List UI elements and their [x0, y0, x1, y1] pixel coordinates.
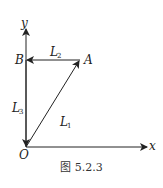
vector-l1	[26, 61, 79, 147]
figure-caption: 图 5.2.3	[0, 158, 163, 174]
vector-l3-label: L 3	[11, 101, 23, 116]
svg-text:2: 2	[57, 52, 61, 60]
y-axis-label: y	[20, 16, 28, 30]
x-axis-label: x	[149, 139, 156, 153]
vector-l1-label: L 1	[59, 115, 71, 130]
svg-text:3: 3	[19, 108, 23, 116]
point-a-label: A	[83, 53, 93, 67]
point-b-label: B	[14, 53, 24, 67]
vector-l2-label: L 2	[49, 45, 61, 60]
svg-text:1: 1	[67, 122, 71, 130]
